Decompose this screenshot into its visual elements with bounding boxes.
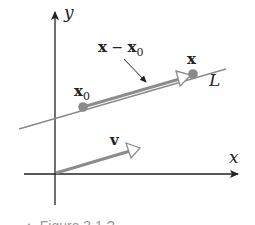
vector-x-minus-x0 <box>83 71 191 107</box>
vector-v: v <box>56 131 140 173</box>
point-x-label: x <box>187 50 197 68</box>
vector-x-minus-x0-shaft <box>83 80 178 108</box>
axes: y x <box>24 2 239 205</box>
line-parametric-diagram: y x L x0 x x − x0 v ▲ Figure 3.1.? <box>0 0 255 225</box>
figure-caption: ▲ Figure 3.1.? <box>22 218 115 225</box>
x-axis-label: x <box>229 147 239 167</box>
vector-v-label: v <box>109 131 120 149</box>
line-L-label: L <box>208 70 220 90</box>
vector-v-shaft <box>56 151 130 173</box>
difference-vector-label: x − x0 <box>98 38 144 59</box>
point-x0 <box>78 102 88 112</box>
y-axis-label: y <box>63 2 74 22</box>
point-x <box>188 69 198 79</box>
hollow-arrowhead-icon <box>126 143 140 158</box>
pointer-arrow <box>124 59 146 82</box>
point-x0-label: x0 <box>74 82 90 103</box>
